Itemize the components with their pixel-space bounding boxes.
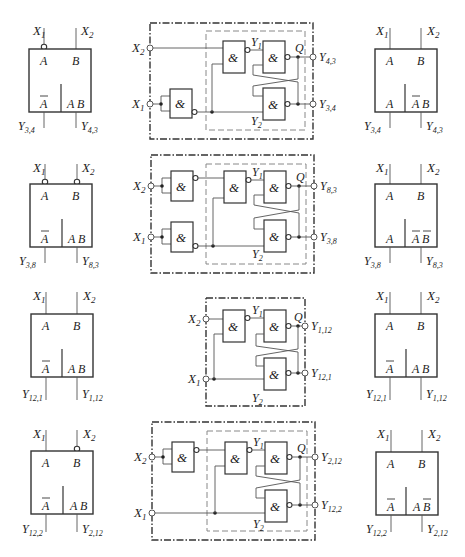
svg-text:Y3,8: Y3,8 <box>364 254 381 270</box>
circuit-output-bottom: Y3,4 <box>319 97 336 113</box>
label-x2: X2 <box>80 23 94 40</box>
svg-text:A B: A B <box>412 500 431 514</box>
terminal-x1 <box>147 101 153 107</box>
svg-text:Y8,3: Y8,3 <box>82 254 99 270</box>
circuit-label-x2: X2 <box>131 40 145 57</box>
right-block-row-1: X1 X2 A B A A B Y3,4 Y4,3 <box>364 23 443 135</box>
svg-text:B: B <box>417 54 425 68</box>
row-1: X1 X2 A B A A B Y3,4 Y4,3 X2 X1 <box>18 23 443 139</box>
svg-text:Y12,1: Y12,1 <box>22 387 43 403</box>
svg-text:&: & <box>175 96 186 111</box>
svg-text:&: & <box>228 319 239 334</box>
svg-text:A: A <box>385 319 394 333</box>
left-block-row-1: X1 X2 A B A A B Y3,4 Y4,3 <box>18 23 98 135</box>
svg-text:A: A <box>41 456 50 470</box>
svg-text:&: & <box>270 451 281 466</box>
svg-text:X1: X1 <box>32 288 45 305</box>
svg-text:Q: Q <box>296 170 305 184</box>
svg-text:A: A <box>385 54 394 68</box>
circuit-row-2: X2 X1 & & & Y1 <box>132 155 337 273</box>
label-ab: A B <box>66 97 85 111</box>
svg-text:Y2,12: Y2,12 <box>427 522 448 538</box>
svg-text:&: & <box>230 451 241 466</box>
row-2: X1 X2 A B A A B Y3,8 Y8,3 X2 X1 & <box>19 155 443 273</box>
svg-text:X1: X1 <box>132 229 145 246</box>
svg-text:B: B <box>417 189 425 203</box>
svg-text:X1: X1 <box>375 288 388 305</box>
label-y2: Y2 <box>251 114 262 130</box>
svg-text:B: B <box>418 457 426 471</box>
svg-text:&: & <box>269 229 280 244</box>
svg-text:Y12,1: Y12,1 <box>366 387 387 403</box>
row-4: X1 X2 A B A A B Y12,2 Y2,12 X2 X1 & <box>22 422 448 540</box>
svg-text:X2: X2 <box>82 288 96 305</box>
svg-text:Y3,4: Y3,4 <box>364 119 381 135</box>
svg-text:&: & <box>228 50 239 65</box>
svg-text:A: A <box>385 232 394 246</box>
output-right: Y4,3 <box>81 119 98 135</box>
svg-text:Y8,3: Y8,3 <box>426 254 443 270</box>
svg-text:Y1,12: Y1,12 <box>82 387 103 403</box>
svg-text:&: & <box>270 499 281 514</box>
svg-text:Y3,8: Y3,8 <box>320 230 337 246</box>
svg-text:X1: X1 <box>133 505 146 522</box>
svg-text:&: & <box>176 230 187 245</box>
svg-text:X2: X2 <box>132 178 146 195</box>
svg-text:B: B <box>72 189 80 203</box>
svg-text:A: A <box>386 457 395 471</box>
svg-text:A: A <box>41 362 50 376</box>
svg-text:&: & <box>177 450 188 465</box>
label-b: B <box>72 54 80 68</box>
svg-text:X1: X1 <box>32 426 45 443</box>
svg-text:&: & <box>269 319 280 334</box>
svg-text:A: A <box>385 362 394 376</box>
svg-text:Q: Q <box>297 441 306 455</box>
output-left: Y3,4 <box>18 119 35 135</box>
svg-text:X1: X1 <box>376 426 389 443</box>
svg-text:A B: A B <box>411 97 430 111</box>
svg-text:Y1: Y1 <box>252 303 263 319</box>
label-not-a: A <box>39 97 48 111</box>
svg-text:X2: X2 <box>81 160 95 177</box>
svg-text:Y3,8: Y3,8 <box>19 254 36 270</box>
svg-text:X2: X2 <box>187 311 201 328</box>
svg-text:Y1: Y1 <box>252 165 263 181</box>
svg-text:A: A <box>41 319 50 333</box>
right-block-row-2: X1 X2 A B A A B Y3,8 Y8,3 <box>364 160 443 270</box>
svg-text:Y2: Y2 <box>252 391 263 407</box>
label-q: Q <box>295 41 304 55</box>
svg-text:B: B <box>73 456 81 470</box>
label-x1: X1 <box>32 23 45 40</box>
svg-text:X2: X2 <box>82 426 96 443</box>
right-block-row-4: X1 X2 A B A A B Y12,2 Y2,12 <box>366 426 448 538</box>
circuit-output-top: Y4,3 <box>319 50 336 66</box>
left-block-row-3: X1 X2 A B A A B Y12,1 Y1,12 <box>22 288 103 403</box>
svg-text:&: & <box>269 180 280 195</box>
svg-text:Y4,3: Y4,3 <box>426 119 443 135</box>
svg-text:Y12,2: Y12,2 <box>321 498 342 514</box>
svg-text:Y12,1: Y12,1 <box>311 366 332 382</box>
svg-text:X1: X1 <box>32 160 45 177</box>
circuit-row-4: X2 X1 & & Y1 & Q & <box>133 422 342 540</box>
svg-text:X2: X2 <box>426 288 440 305</box>
svg-text:Y1: Y1 <box>253 435 264 451</box>
label-a: A <box>39 54 48 68</box>
svg-text:X2: X2 <box>427 426 441 443</box>
svg-text:Y12,2: Y12,2 <box>22 522 43 538</box>
svg-text:Y2,12: Y2,12 <box>82 522 103 538</box>
right-block-row-3: X1 X2 A B A A B Y12,1 Y1,12 <box>366 288 447 403</box>
svg-text:&: & <box>269 367 280 382</box>
svg-text:&: & <box>268 97 279 112</box>
label-y1: Y1 <box>251 35 262 51</box>
svg-text:X1: X1 <box>187 371 200 388</box>
svg-text:A: A <box>40 232 49 246</box>
circuit-row-1: X2 X1 & & Y1 & Q <box>131 23 336 139</box>
svg-text:A B: A B <box>411 232 430 246</box>
terminal-x2 <box>147 45 153 51</box>
svg-text:Y2,12: Y2,12 <box>321 450 342 466</box>
svg-text:Y1,12: Y1,12 <box>426 387 447 403</box>
svg-text:A B: A B <box>411 362 430 376</box>
svg-text:A: A <box>386 500 395 514</box>
svg-text:&: & <box>176 179 187 194</box>
svg-text:X1: X1 <box>375 160 388 177</box>
